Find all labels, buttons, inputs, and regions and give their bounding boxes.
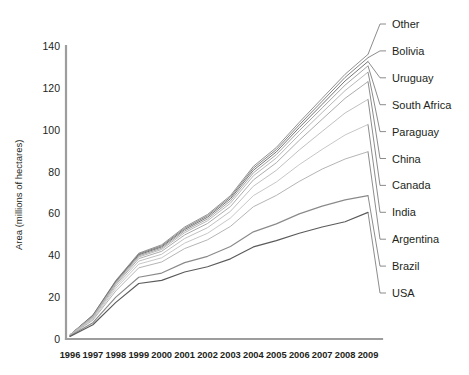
legend-label-south-africa[interactable]: South Africa bbox=[392, 99, 452, 111]
y-tick-label: 20 bbox=[48, 291, 60, 303]
y-tick-label: 140 bbox=[42, 40, 60, 52]
x-tick-label: 2008 bbox=[335, 350, 356, 360]
series-line-brazil bbox=[70, 196, 368, 336]
y-tick-label: 100 bbox=[42, 124, 60, 136]
series-line-south-africa bbox=[70, 66, 368, 335]
y-tick-label: 40 bbox=[48, 249, 60, 261]
x-tick-label: 1998 bbox=[106, 350, 127, 360]
x-tick-label: 2009 bbox=[358, 350, 379, 360]
legend-leader-line bbox=[368, 212, 386, 293]
x-tick-label: 1997 bbox=[83, 350, 104, 360]
series-line-paraguay bbox=[70, 72, 368, 335]
series-line-canada bbox=[70, 99, 368, 335]
legend-label-other[interactable]: Other bbox=[392, 18, 420, 30]
y-axis-ticks: 020406080100120140 bbox=[42, 40, 60, 345]
x-tick-label: 2006 bbox=[289, 350, 310, 360]
y-axis-title: Area (millions of hectares) bbox=[13, 140, 24, 250]
legend-label-bolivia[interactable]: Bolivia bbox=[392, 45, 425, 57]
legend-label-india[interactable]: India bbox=[392, 206, 417, 218]
legend-label-usa[interactable]: USA bbox=[392, 287, 415, 299]
x-tick-label: 1999 bbox=[128, 350, 149, 360]
legend-label-canada[interactable]: Canada bbox=[392, 179, 431, 191]
x-tick-label: 2001 bbox=[174, 350, 195, 360]
x-tick-label: 2003 bbox=[220, 350, 241, 360]
legend-label-brazil[interactable]: Brazil bbox=[392, 260, 420, 272]
x-tick-label: 2004 bbox=[243, 350, 265, 360]
legend-label-argentina[interactable]: Argentina bbox=[392, 233, 440, 245]
line-chart: Area (millions of hectares) 020406080100… bbox=[0, 0, 469, 375]
legend-label-uruguay[interactable]: Uruguay bbox=[392, 72, 434, 84]
y-tick-label: 120 bbox=[42, 82, 60, 94]
y-tick-label: 60 bbox=[48, 207, 60, 219]
x-axis-ticks: 1996199719981999200020012002200320042005… bbox=[60, 350, 379, 360]
legend-label-paraguay[interactable]: Paraguay bbox=[392, 126, 440, 138]
x-tick-label: 2000 bbox=[151, 350, 172, 360]
x-tick-label: 2002 bbox=[197, 350, 218, 360]
y-tick-label: 0 bbox=[54, 333, 60, 345]
data-series-group bbox=[70, 54, 368, 336]
y-tick-label: 80 bbox=[48, 166, 60, 178]
x-tick-label: 2005 bbox=[266, 350, 287, 360]
chart-container: Area (millions of hectares) 020406080100… bbox=[0, 0, 469, 375]
legend-group: OtherBoliviaUruguaySouth AfricaParaguayC… bbox=[368, 18, 452, 299]
x-tick-label: 1996 bbox=[60, 350, 81, 360]
legend-leader-line bbox=[368, 51, 386, 58]
series-line-usa bbox=[70, 212, 368, 336]
legend-leader-line bbox=[368, 72, 386, 131]
series-line-bolivia bbox=[70, 58, 368, 335]
legend-label-china[interactable]: China bbox=[392, 153, 422, 165]
series-line-argentina bbox=[70, 152, 368, 336]
x-tick-label: 2007 bbox=[312, 350, 333, 360]
legend-leader-line bbox=[368, 24, 386, 54]
series-line-uruguay bbox=[70, 61, 368, 334]
